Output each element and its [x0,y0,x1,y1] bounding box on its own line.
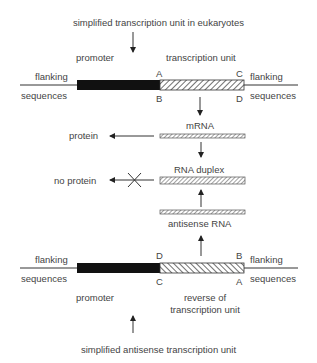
flanking-right-2: sequences [250,91,296,101]
flanking-right-2: sequences [250,274,296,284]
label-B: B [236,251,242,261]
label-C: C [236,69,243,79]
antisense-strand [160,210,245,214]
flanking-left-2: sequences [21,274,67,284]
label-D: D [236,94,243,104]
bottom-title: simplified antisense transcription unit [0,345,317,355]
label-C: C [156,277,163,287]
top-title: simplified transcription unit in eukaryo… [0,18,317,28]
transcription-unit-label: transcription unit [166,53,236,63]
flanking-left-1: flanking [35,255,68,265]
reverse-label-2: transcription unit [160,305,250,315]
label-A: A [236,277,242,287]
label-A: A [156,69,162,79]
flanking-right-1: flanking [250,255,283,265]
reverse-label-1: reverse of [160,293,250,303]
antisense-rna-label: antisense RNA [168,219,231,229]
no-protein-label: no protein [54,176,96,186]
transcription-unit-block [160,80,244,90]
promoter-label: promoter [76,293,114,303]
mrna-strand [160,134,245,138]
promoter-block [77,263,160,273]
diagram-graphics [0,0,317,363]
rna-duplex-strand [160,177,245,184]
promoter-label: promoter [76,53,114,63]
mrna-label: mRNA [186,121,214,131]
promoter-block [77,80,160,90]
label-D: D [156,251,163,261]
label-B: B [156,94,162,104]
reverse-unit-block [160,263,244,273]
flanking-left-2: sequences [21,91,67,101]
flanking-right-1: flanking [250,72,283,82]
flanking-left-1: flanking [35,72,68,82]
protein-label: protein [69,131,98,141]
rna-duplex-label: RNA duplex [174,165,224,175]
